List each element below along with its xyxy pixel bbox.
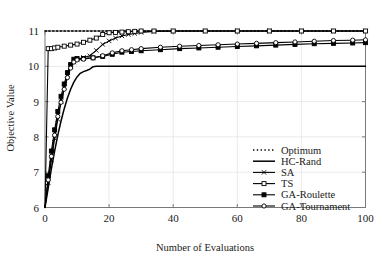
x-axis-title: Number of Evaluations [156, 242, 254, 253]
y-tick-label: 11 [28, 25, 39, 37]
objective-value-convergence-chart: 02040608010067891011 Number of Evaluatio… [0, 0, 390, 258]
chart-figure: 02040608010067891011 Number of Evaluatio… [0, 0, 390, 258]
x-tick-label: 100 [357, 212, 374, 224]
x-tick-label: 60 [232, 212, 244, 224]
x-tick-label: 40 [168, 212, 180, 224]
y-tick-label: 8 [34, 131, 40, 143]
x-tick-label: 20 [104, 212, 116, 224]
x-tick-label: 0 [42, 212, 48, 224]
y-tick-label: 9 [34, 96, 40, 108]
legend-label: SA [281, 167, 295, 178]
y-tick-label: 7 [34, 166, 40, 178]
y-tick-label: 6 [34, 202, 40, 214]
x-tick-label: 80 [296, 212, 308, 224]
legend-label: TS [281, 178, 293, 189]
legend-label: HC-Rand [281, 156, 322, 167]
y-axis-title: Objective Value [5, 84, 16, 151]
legend-label: Optimum [281, 145, 321, 156]
y-tick-label: 10 [28, 60, 40, 72]
legend-label: GA-Roulette [281, 189, 336, 200]
legend-label: GA-Tournament [281, 201, 350, 212]
